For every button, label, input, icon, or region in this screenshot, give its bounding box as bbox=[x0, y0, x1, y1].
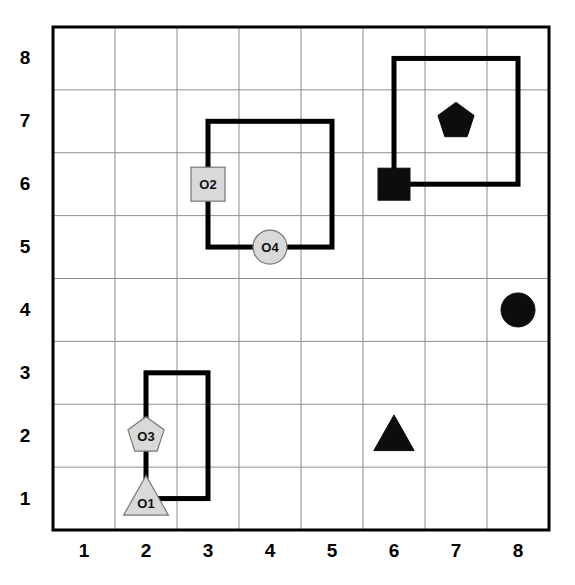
object-label: O2 bbox=[199, 177, 216, 192]
marker-pentagon bbox=[438, 102, 474, 136]
y-tick-5: 5 bbox=[11, 237, 39, 256]
object-label: O3 bbox=[137, 429, 154, 444]
diagram-canvas: O2O4O3O1 12345678 12345678 bbox=[0, 0, 575, 585]
object-label: O4 bbox=[261, 240, 279, 255]
y-tick-8: 8 bbox=[11, 48, 39, 67]
x-tick-4: 4 bbox=[250, 541, 290, 560]
y-tick-4: 4 bbox=[11, 300, 39, 319]
x-tick-3: 3 bbox=[188, 541, 228, 560]
object-label: O1 bbox=[137, 496, 154, 511]
x-tick-1: 1 bbox=[64, 541, 104, 560]
x-tick-8: 8 bbox=[498, 541, 538, 560]
object-O1: O1 bbox=[124, 476, 169, 516]
marker-triangle bbox=[374, 415, 414, 451]
object-O2: O2 bbox=[191, 167, 225, 201]
region-box-region-middle bbox=[208, 121, 332, 247]
marker-circle bbox=[501, 293, 535, 327]
x-tick-5: 5 bbox=[312, 541, 352, 560]
y-tick-6: 6 bbox=[11, 174, 39, 193]
x-tick-7: 7 bbox=[436, 541, 476, 560]
y-tick-2: 2 bbox=[11, 426, 39, 445]
x-tick-2: 2 bbox=[126, 541, 166, 560]
object-O4: O4 bbox=[253, 230, 287, 264]
x-tick-6: 6 bbox=[374, 541, 414, 560]
markers-group bbox=[374, 102, 535, 450]
y-tick-3: 3 bbox=[11, 363, 39, 382]
y-tick-1: 1 bbox=[11, 489, 39, 508]
object-O3: O3 bbox=[128, 417, 164, 451]
marker-square bbox=[378, 168, 410, 200]
grid-plot: O2O4O3O1 bbox=[0, 0, 575, 585]
gridlines-group bbox=[53, 27, 549, 530]
y-tick-7: 7 bbox=[11, 111, 39, 130]
